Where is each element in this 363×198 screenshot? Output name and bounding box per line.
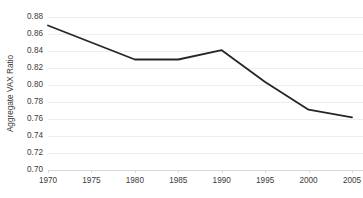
y-tick-label: 0.74 — [27, 131, 43, 140]
chart-background — [0, 0, 363, 198]
x-tick-label: 1975 — [82, 176, 101, 185]
x-tick-label: 2000 — [299, 176, 318, 185]
y-tick-label: 0.76 — [27, 114, 43, 123]
y-tick-label: 0.80 — [27, 80, 43, 89]
y-axis-title: Aggregate VAX Ratio — [6, 54, 15, 132]
y-tick-label: 0.70 — [27, 165, 43, 174]
line-chart: 0.880.860.840.820.800.780.760.740.720.70… — [0, 0, 363, 198]
x-tick-label: 1970 — [39, 176, 58, 185]
x-tick-label: 1985 — [169, 176, 188, 185]
x-tick-label: 2005 — [343, 176, 362, 185]
y-tick-label: 0.78 — [27, 97, 43, 106]
x-tick-label: 1990 — [213, 176, 232, 185]
y-tick-label: 0.82 — [27, 63, 43, 72]
x-tick-label: 1980 — [126, 176, 145, 185]
x-tick-label: 1995 — [256, 176, 275, 185]
chart-canvas: 0.880.860.840.820.800.780.760.740.720.70… — [0, 0, 363, 198]
y-tick-label: 0.88 — [27, 12, 43, 21]
y-axis-title-text: Aggregate VAX Ratio — [6, 54, 15, 132]
y-tick-label: 0.84 — [27, 46, 43, 55]
y-tick-label: 0.72 — [27, 148, 43, 157]
y-tick-label: 0.86 — [27, 29, 43, 38]
